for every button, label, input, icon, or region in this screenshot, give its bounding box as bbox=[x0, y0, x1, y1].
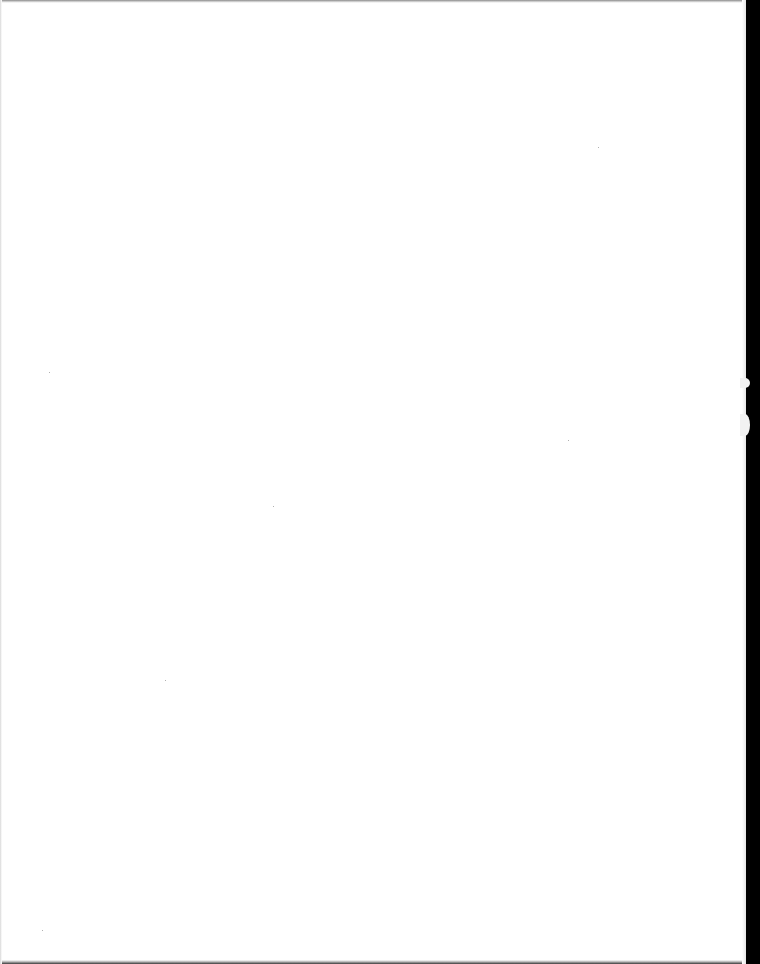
scanner-bed-strip bbox=[746, 0, 760, 964]
left-edge-shadow bbox=[0, 0, 2, 964]
paper-edge-tear bbox=[740, 414, 750, 436]
bottom-edge-shadow bbox=[0, 960, 746, 964]
scanned-page bbox=[0, 0, 760, 964]
dust-speck bbox=[49, 372, 50, 373]
dust-speck bbox=[598, 147, 599, 148]
dust-speck bbox=[273, 506, 274, 507]
paper-edge-tear bbox=[740, 378, 750, 388]
blank-paper-sheet bbox=[0, 0, 746, 964]
dust-speck bbox=[568, 440, 569, 441]
dust-speck bbox=[165, 680, 166, 681]
dust-speck bbox=[42, 930, 43, 931]
top-edge-shadow bbox=[0, 0, 746, 3]
